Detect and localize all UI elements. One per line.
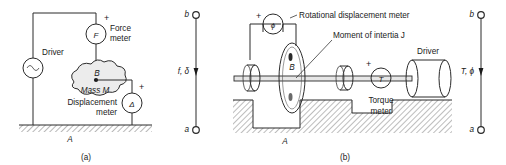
port-variables-a: f, δ	[178, 67, 190, 76]
phi-meter-label: Rotational displacement meter	[299, 11, 410, 20]
node-label-b-a: B	[94, 69, 100, 78]
terminal-a-b	[478, 127, 485, 134]
terminal-a-label-a: a	[184, 125, 189, 134]
force-meter-label-line2: meter	[110, 34, 131, 43]
terminal-b-b	[478, 12, 485, 19]
terminal-b-label-a: b	[184, 10, 189, 19]
phi-meter-symbol: ϕ	[271, 21, 276, 30]
panel-caption-a: (a)	[81, 153, 91, 162]
ground-datum-a	[19, 125, 152, 132]
ground-label-b: A	[281, 137, 288, 146]
shaft-bar	[234, 76, 412, 81]
port-variables-b: T, ϕ	[461, 67, 475, 76]
panel-caption-b: (b)	[340, 153, 350, 162]
mechanical-systems-diagram: A Driver F + Force meter B Mass M	[0, 0, 506, 165]
terminal-b-label-b: b	[469, 10, 474, 19]
terminal-b-a	[193, 12, 200, 19]
displacement-meter-polarity: +	[139, 82, 144, 92]
driver-label-a: Driver	[42, 48, 64, 57]
displacement-meter-symbol: Δ	[128, 100, 134, 109]
torque-meter-label-line2: meter	[371, 107, 392, 116]
displacement-meter-label-line2: meter	[96, 108, 117, 117]
terminal-a-a	[193, 127, 200, 134]
torque-meter-label-line1: Torque	[368, 96, 393, 105]
disc-pin-top	[289, 53, 293, 61]
disc-pin-bottom	[289, 93, 293, 101]
ground-hatch-a	[19, 125, 152, 132]
node-label-b-b: B	[289, 63, 295, 72]
terminal-a-label-b: a	[469, 125, 474, 134]
force-meter-label-line1: Force	[110, 24, 131, 33]
shaft-b	[234, 76, 412, 81]
phi-meter-polarity: +	[256, 11, 261, 21]
ground-label-a: A	[66, 135, 73, 144]
figure-container: A Driver F + Force meter B Mass M	[0, 0, 506, 165]
mass-label-a: Mass M	[81, 86, 110, 95]
displacement-meter-label-line1: Displacement	[67, 98, 117, 107]
force-meter-polarity: +	[104, 13, 109, 23]
torque-meter-polarity: +	[366, 59, 371, 69]
inertia-label: Moment of intertia J	[333, 31, 405, 40]
driver-label-b: Driver	[417, 47, 439, 56]
